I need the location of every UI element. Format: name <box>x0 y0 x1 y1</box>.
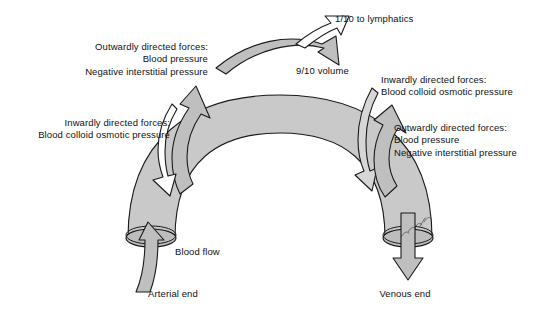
label-outward-left-line2: Blood pressure <box>58 53 208 65</box>
label-outward-forces-left: Outwardly directed forces: Blood pressur… <box>58 41 208 78</box>
label-arterial-end: Arterial end <box>118 288 228 300</box>
label-inward-right-line1: Inwardly directed forces: <box>381 74 556 86</box>
label-inward-left-line1: Inwardly directed forces: <box>10 117 170 129</box>
label-volume: 9/10 volume <box>296 65 376 77</box>
label-outward-right-line1: Outwardly directed forces: <box>394 122 559 134</box>
label-blood-flow: Blood flow <box>175 246 265 258</box>
label-inward-forces-right: Inwardly directed forces: Blood colloid … <box>381 74 556 99</box>
label-outward-right-line2: Blood pressure <box>394 134 559 146</box>
label-inward-forces-left: Inwardly directed forces: Blood colloid … <box>10 117 170 142</box>
label-outward-left-line1: Outwardly directed forces: <box>58 41 208 53</box>
label-outward-forces-right: Outwardly directed forces: Blood pressur… <box>394 122 559 159</box>
label-inward-left-line2: Blood colloid osmotic pressure <box>10 129 170 141</box>
label-inward-right-line2: Blood colloid osmotic pressure <box>381 86 556 98</box>
label-venous-end: Venous end <box>355 288 455 300</box>
label-outward-left-line3: Negative interstitial pressure <box>58 66 208 78</box>
label-lymphatics: 1/10 to lymphatics <box>335 13 455 25</box>
capillary-exchange-diagram: Outwardly directed forces: Blood pressur… <box>0 0 560 317</box>
label-outward-right-line3: Negative interstitial pressure <box>394 147 559 159</box>
